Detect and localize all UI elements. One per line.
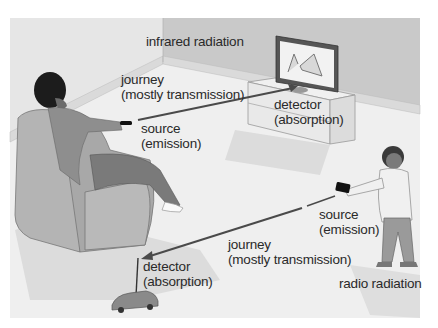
infrared-source-text: source bbox=[141, 121, 201, 136]
infrared-source-label: source (emission) bbox=[141, 121, 201, 151]
radio-detector-label: detector (absorption) bbox=[143, 259, 213, 289]
infrared-detector-detail: (absorption) bbox=[274, 112, 344, 127]
infrared-detector-label: detector (absorption) bbox=[274, 97, 344, 127]
infrared-journey-label: journey (mostly transmission) bbox=[121, 72, 244, 102]
radio-title: radio radiation bbox=[339, 276, 422, 291]
infrared-detector-text: detector bbox=[274, 97, 344, 112]
radio-journey-text: journey bbox=[228, 237, 351, 252]
radio-journey-label: journey (mostly transmission) bbox=[228, 237, 351, 267]
radiation-illustration: infrared radiation journey (mostly trans… bbox=[0, 0, 438, 328]
infrared-title: infrared radiation bbox=[146, 34, 244, 49]
infrared-journey-text: journey bbox=[121, 72, 244, 87]
radio-journey-detail: (mostly transmission) bbox=[228, 252, 351, 267]
infrared-source-detail: (emission) bbox=[141, 136, 201, 151]
radio-source-label: source (emission) bbox=[319, 207, 379, 237]
tv-remote-icon bbox=[120, 121, 132, 125]
infrared-journey-detail: (mostly transmission) bbox=[121, 87, 244, 102]
radio-source-text: source bbox=[319, 207, 379, 222]
radio-source-detail: (emission) bbox=[319, 222, 379, 237]
radio-detector-text: detector bbox=[143, 259, 213, 274]
radio-detector-detail: (absorption) bbox=[143, 274, 213, 289]
